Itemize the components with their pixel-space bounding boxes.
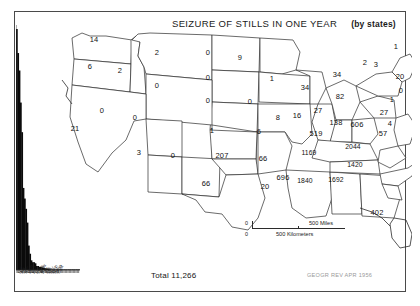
state-value-md: 57 xyxy=(379,129,388,138)
scale-miles-label: 500 Miles xyxy=(309,220,333,226)
state-shape-mn xyxy=(260,38,300,74)
usa-map xyxy=(60,22,412,257)
state-value-nd: 0 xyxy=(206,48,210,57)
state-value-ca: 21 xyxy=(71,124,80,133)
state-value-fl: 402 xyxy=(371,208,384,217)
state-value-mo: 6 xyxy=(257,127,261,136)
figure-root: SEIZURE OF STILLS IN ONE YEAR(by states)… xyxy=(0,0,420,306)
scale-km-zero: 0 xyxy=(245,231,248,237)
state-value-sc: 1420 xyxy=(347,161,363,168)
state-value-pa: 82 xyxy=(336,92,345,101)
scale-miles-zero: 0 xyxy=(245,220,248,226)
state-value-ks: 1 xyxy=(210,126,214,135)
state-value-nm: 0 xyxy=(171,151,175,160)
state-value-ne: 0 xyxy=(206,96,210,105)
state-shape-ca-nv xyxy=(70,85,146,172)
state-value-ga: 1692 xyxy=(328,176,344,183)
state-shape-fl xyxy=(390,218,412,248)
state-shape-nm xyxy=(182,157,220,197)
total-label: Total 11,266 xyxy=(151,271,196,280)
state-value-ky: 519 xyxy=(310,129,323,138)
state-value-ia: 0 xyxy=(248,97,252,106)
state-value-de: 4 xyxy=(388,119,392,128)
state-shape-az xyxy=(148,155,182,194)
state-value-ms: 696 xyxy=(277,173,290,182)
state-value-tx: 66 xyxy=(202,179,211,188)
state-value-oh: 27 xyxy=(314,106,323,115)
state-value-wv: 138 xyxy=(330,118,343,127)
source-credit: GEOGR REV APR 1956 xyxy=(307,272,372,278)
state-value-wa: 14 xyxy=(90,35,99,44)
state-value-ar: 66 xyxy=(259,154,268,163)
state-value-mi: 34 xyxy=(301,83,310,92)
state-value-ct: 1 xyxy=(390,95,394,104)
state-value-ut: 0 xyxy=(133,113,137,122)
state-value-va: 606 xyxy=(351,120,364,129)
state-shape-ut xyxy=(146,119,182,157)
state-shape-nd xyxy=(212,35,260,72)
map-scale: 0 0 500 Miles 500 Kilometers xyxy=(243,220,353,248)
state-value-ok: 207 xyxy=(216,151,229,160)
state-value-il: 8 xyxy=(276,113,280,122)
state-shape-va xyxy=(394,114,412,146)
state-value-az: 3 xyxy=(137,148,141,157)
state-value-vt: 2 xyxy=(363,58,367,67)
state-value-nh: 3 xyxy=(374,60,378,69)
state-value-la: 20 xyxy=(261,182,270,191)
scale-km-label: 500 Kilometers xyxy=(276,231,313,237)
state-value-wi: 1 xyxy=(270,74,274,83)
state-value-ri: 0 xyxy=(399,86,403,95)
state-value-id: 2 xyxy=(118,66,122,75)
state-value-al: 1840 xyxy=(297,177,313,184)
state-value-nc: 2044 xyxy=(345,143,361,150)
state-value-me: 1 xyxy=(394,42,398,51)
state-value-nv: 0 xyxy=(100,106,104,115)
histogram-axis-labels: N.CAlaGaS.CTennMissVaKyFlaOklaW.VaPaTexA… xyxy=(16,270,80,302)
state-value-sd: 0 xyxy=(206,73,210,82)
state-value-nj: 27 xyxy=(380,108,389,117)
state-value-in: 16 xyxy=(293,111,302,120)
state-value-ny: 34 xyxy=(333,70,342,79)
state-value-wy: 0 xyxy=(155,81,159,90)
state-value-ma: 20 xyxy=(396,72,405,81)
state-shape-wv xyxy=(378,146,406,168)
state-value-or: 6 xyxy=(88,62,92,71)
state-value-tn: 1169 xyxy=(301,149,316,156)
state-value-mn: 9 xyxy=(238,53,242,62)
state-value-mt: 2 xyxy=(155,48,159,57)
